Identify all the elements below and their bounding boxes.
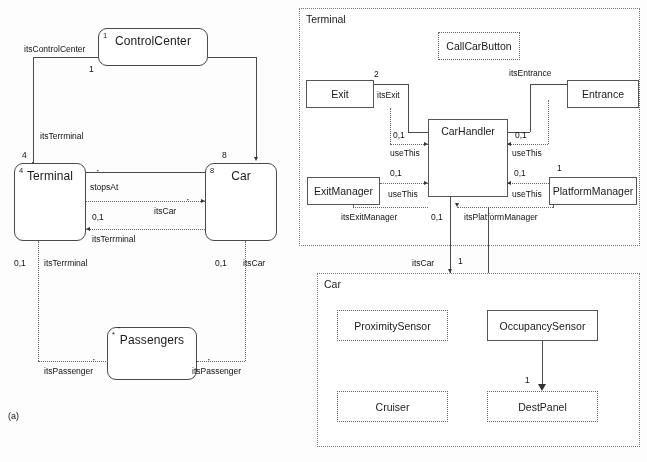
class-box-passengers[interactable]: * Passengers	[107, 327, 197, 380]
panel-terminal-title: Terminal	[306, 13, 346, 25]
label-its-control-center: itsControlCenter	[24, 44, 85, 54]
mult-cc-bottom: 1	[89, 64, 94, 74]
conn-handler-entrance-v	[530, 84, 531, 132]
mult-exit-top: 2	[374, 69, 379, 79]
box-exit-manager[interactable]: ExitManager	[307, 177, 380, 205]
conn-handler-exit-usethis-v	[390, 108, 391, 144]
diagram-canvas: 1 ControlCenter 4 Terminal 8 Car * Passe…	[0, 0, 647, 462]
star-passenger-top: ·	[117, 325, 121, 329]
mult-entrance-handler: 0,1	[515, 130, 527, 140]
mult-terminal-bottom: 0,1	[14, 258, 26, 268]
mult-exit-manager: 0,1	[390, 168, 402, 178]
label-its-car-right: itsCar	[243, 258, 265, 268]
mult-platform-one: 1	[557, 163, 562, 173]
conn-handler-car-v	[450, 197, 451, 273]
panel-car-title: Car	[324, 278, 341, 290]
arrowhead-usethis-2-icon	[424, 181, 428, 185]
assoc-terminal-passengers-v	[38, 241, 39, 361]
box-occupancy-sensor[interactable]: OccupancySensor	[487, 310, 598, 341]
exit-label: Exit	[331, 88, 349, 100]
class-box-car[interactable]: 8 Car	[205, 163, 277, 241]
assoc-cc-terminal-h	[33, 57, 98, 58]
mult-handler-bottom: 0,1	[431, 212, 443, 222]
conn-platmgr-handler-h	[457, 207, 553, 208]
label-its-platform-manager: itsPlatformManager	[464, 212, 538, 222]
mult-exit-handler: 0,1	[393, 130, 405, 140]
mult-terminal-mid: 0,1	[92, 212, 104, 222]
star-stops-at: ·	[96, 168, 100, 172]
assoc-cc-car-v	[256, 57, 257, 159]
box-cruiser[interactable]: Cruiser	[337, 391, 448, 422]
terminal-label: Terminal	[15, 169, 85, 183]
conn-platmgr-handler-v	[553, 205, 554, 207]
conn-handler-exitmgr-h	[380, 183, 428, 184]
box-exit[interactable]: Exit	[306, 80, 374, 108]
conn-handler-platmgr-h	[508, 183, 549, 184]
star-its-car: ·	[186, 197, 190, 201]
conn-entrance-handler-h	[508, 144, 548, 145]
conn-exit-handler-h	[408, 132, 428, 133]
box-platform-manager[interactable]: PlatformManager	[549, 177, 637, 205]
box-call-car-button[interactable]: CallCarButton	[438, 32, 520, 60]
assoc-cc-terminal-v	[33, 57, 34, 163]
conn-exitmgr-handler-h	[353, 207, 428, 208]
call-car-button-label: CallCarButton	[446, 40, 511, 52]
conn-occupancy-destpanel	[542, 341, 543, 386]
label-use-this-1: useThis	[390, 148, 420, 158]
control-center-label: ControlCenter	[99, 34, 207, 48]
mult-platform-manager: 0,1	[514, 168, 526, 178]
conn-exit-top-h	[374, 84, 408, 85]
assoc-its-terrminal-mid	[86, 229, 205, 230]
label-use-this-2: useThis	[388, 189, 418, 199]
conn-handler-entrance-h2	[530, 84, 567, 85]
label-its-entrance: itsEntrance	[509, 68, 552, 78]
mult-its-car-panel: 1	[458, 256, 463, 266]
exit-manager-label: ExitManager	[314, 185, 373, 197]
label-its-exit-manager: itsExitManager	[341, 212, 397, 222]
label-its-car-panel: itsCar	[412, 258, 434, 268]
arrowhead-dest-panel-icon	[538, 384, 546, 391]
label-its-terrminal-mid: itsTerrminal	[92, 234, 135, 244]
label-its-terrminal-upper: itsTerrminal	[40, 131, 83, 141]
mult-car-top: 8	[222, 150, 227, 160]
star-terminal-top: ·	[31, 160, 35, 164]
cruiser-label: Cruiser	[376, 401, 410, 413]
arrowhead-platmgr-icon	[455, 203, 459, 207]
platform-manager-label: PlatformManager	[553, 185, 634, 197]
arrowhead-its-car-panel-icon	[448, 269, 452, 273]
conn-platmgr-car-v	[488, 207, 489, 273]
arrowhead-usethis-1-icon	[424, 142, 428, 146]
assoc-stops-at	[86, 172, 205, 173]
star-passenger-right: ·	[207, 357, 211, 361]
label-its-terrminal-lower: itsTerrminal	[44, 258, 87, 268]
conn-exitmgr-handler-v	[353, 205, 354, 207]
box-proximity-sensor[interactable]: ProximitySensor	[337, 310, 448, 341]
mult-dest-panel: 1	[525, 375, 530, 385]
star-passenger-left: ·	[92, 357, 96, 361]
figure-caption: (a)	[8, 411, 19, 421]
label-use-this-4: useThis	[512, 189, 542, 199]
box-dest-panel[interactable]: DestPanel	[487, 391, 598, 422]
assoc-cc-car-h	[208, 57, 256, 58]
label-its-exit: itsExit	[377, 90, 400, 100]
label-stops-at: stopsAt	[90, 182, 118, 192]
label-its-passenger-right: itsPassenger	[192, 366, 241, 376]
mult-terminal-top: 4	[22, 150, 27, 160]
conn-entrance-handler-v	[548, 100, 549, 144]
car-label: Car	[206, 169, 276, 183]
conn-handler-exit-usethis-h	[390, 144, 428, 145]
arrowhead-cc-car-icon	[254, 157, 258, 161]
passengers-label: Passengers	[108, 333, 196, 347]
class-box-control-center[interactable]: 1 ControlCenter	[98, 28, 208, 66]
label-its-car-mid: itsCar	[154, 206, 176, 216]
label-use-this-3: useThis	[512, 148, 542, 158]
box-car-handler[interactable]: CarHandler	[428, 119, 508, 197]
label-its-passenger-left: itsPassenger	[44, 366, 93, 376]
arrowhead-usethis-3-icon	[507, 142, 511, 146]
proximity-sensor-label: ProximitySensor	[354, 320, 430, 332]
dest-panel-label: DestPanel	[518, 401, 566, 413]
class-box-terminal[interactable]: 4 Terminal	[14, 163, 86, 241]
box-entrance[interactable]: Entrance	[567, 80, 639, 108]
entrance-label: Entrance	[582, 88, 624, 100]
conn-exit-top-v	[408, 84, 409, 132]
